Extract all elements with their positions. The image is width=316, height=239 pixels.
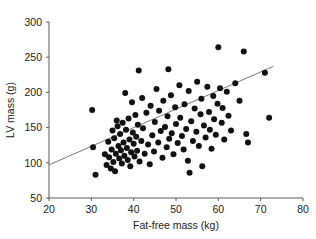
data-point — [177, 115, 183, 121]
data-point — [217, 85, 223, 91]
data-point — [143, 110, 149, 116]
data-point — [221, 137, 227, 143]
data-point — [160, 98, 166, 104]
data-point — [186, 88, 192, 94]
x-tick-label: 20 — [43, 203, 55, 215]
data-point — [166, 136, 172, 142]
data-point — [154, 86, 160, 92]
data-point — [126, 115, 132, 121]
data-point — [176, 82, 182, 88]
data-point — [155, 139, 161, 145]
x-tick-label: 80 — [297, 203, 309, 215]
data-point — [122, 90, 128, 96]
data-point — [162, 124, 168, 130]
data-point — [145, 141, 151, 147]
regression-fit-line — [49, 66, 273, 165]
data-point — [232, 80, 238, 86]
data-point — [164, 144, 170, 150]
x-tick-label: 30 — [85, 203, 97, 215]
scatter-plot-figure: 5010015020025030020304050607080Fat-free … — [0, 0, 316, 239]
data-point — [225, 113, 231, 119]
data-point — [131, 141, 137, 147]
data-point — [127, 163, 133, 169]
data-point — [245, 139, 251, 145]
data-point — [105, 139, 111, 145]
data-point — [132, 153, 138, 159]
data-point — [194, 79, 200, 85]
data-point — [215, 44, 221, 50]
data-point — [169, 130, 175, 136]
data-point — [266, 115, 272, 121]
data-point — [137, 158, 143, 164]
data-point — [193, 129, 199, 135]
regression-line — [49, 66, 273, 165]
x-tick-label: 40 — [128, 203, 140, 215]
data-point — [262, 70, 268, 76]
data-point — [198, 96, 204, 102]
data-point — [142, 151, 148, 157]
data-point — [129, 99, 135, 105]
x-tick-label: 50 — [170, 203, 182, 215]
data-point — [199, 163, 205, 169]
data-point — [147, 161, 153, 167]
y-tick-label: 100 — [24, 157, 42, 169]
data-point — [243, 131, 249, 137]
data-point — [112, 168, 118, 174]
data-point — [192, 106, 198, 112]
data-points — [89, 44, 272, 177]
data-point — [111, 135, 117, 141]
data-point — [241, 49, 247, 55]
y-tick-label: 150 — [24, 121, 42, 133]
data-point — [181, 101, 187, 107]
data-point — [121, 139, 127, 145]
data-point — [204, 84, 210, 90]
data-point — [187, 170, 193, 176]
data-point — [228, 127, 234, 133]
y-tick-label: 250 — [24, 51, 42, 63]
data-point — [148, 103, 154, 109]
data-point — [152, 119, 158, 125]
x-tick-label: 70 — [255, 203, 267, 215]
x-tick-label: 60 — [212, 203, 224, 215]
data-point — [207, 127, 213, 133]
data-point — [210, 93, 216, 99]
data-point — [198, 111, 204, 117]
plot-canvas: 5010015020025030020304050607080Fat-free … — [0, 0, 316, 239]
data-point — [168, 92, 174, 98]
data-point — [151, 149, 157, 155]
data-point — [179, 133, 185, 139]
data-point — [119, 161, 125, 167]
data-point — [139, 95, 145, 101]
data-point — [126, 137, 132, 143]
data-point — [181, 146, 187, 152]
data-point — [134, 148, 140, 154]
y-tick-label: 200 — [24, 86, 42, 98]
data-point — [136, 68, 142, 74]
data-point — [124, 145, 130, 151]
data-point — [211, 116, 217, 122]
data-point — [219, 120, 225, 126]
data-point — [156, 108, 162, 114]
data-point — [140, 125, 146, 131]
data-point — [196, 143, 202, 149]
data-point — [220, 105, 226, 111]
data-point — [135, 122, 141, 128]
data-point — [113, 151, 119, 157]
data-point — [133, 134, 139, 140]
data-point — [183, 126, 189, 132]
data-point — [158, 128, 164, 134]
data-point — [172, 104, 178, 110]
data-point — [109, 146, 115, 152]
data-point — [89, 107, 95, 113]
axes — [46, 22, 303, 201]
data-point — [209, 146, 215, 152]
data-point — [149, 132, 155, 138]
data-point — [114, 118, 120, 124]
data-point — [165, 113, 171, 119]
data-point — [90, 144, 96, 150]
data-point — [125, 157, 131, 163]
data-point — [120, 120, 126, 126]
data-point — [159, 155, 165, 161]
data-point — [214, 101, 220, 107]
data-point — [237, 98, 243, 104]
